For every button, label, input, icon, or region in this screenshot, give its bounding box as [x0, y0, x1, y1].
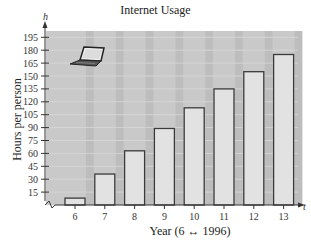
y-tick-label: 90 [28, 122, 38, 133]
y-tick-label: 150 [23, 71, 38, 82]
x-variable-label: t [303, 201, 306, 212]
y-tick-label: 15 [28, 187, 38, 198]
x-tick-label: 9 [162, 211, 167, 222]
x-tick-label: 6 [73, 211, 78, 222]
x-tick-label: 13 [279, 211, 289, 222]
bar-12 [244, 72, 264, 205]
bar-9 [154, 128, 174, 205]
y-tick-label: 135 [23, 83, 38, 94]
bar-chart: 153045607590105120135150165180195 678910… [0, 0, 311, 246]
y-tick-label: 75 [28, 135, 38, 146]
y-tick-label: 195 [23, 32, 38, 43]
x-tick-label: 10 [189, 211, 199, 222]
x-tick-label: 12 [249, 211, 259, 222]
y-variable-label: h [43, 11, 48, 22]
bar-6 [65, 198, 85, 205]
x-tick-label: 7 [102, 211, 107, 222]
bar-10 [184, 108, 204, 205]
bar-7 [95, 174, 115, 205]
y-tick-label: 120 [23, 96, 38, 107]
y-tick-label: 60 [28, 148, 38, 159]
bar-11 [214, 89, 234, 205]
y-tick-label: 165 [23, 58, 38, 69]
bar-8 [125, 151, 145, 205]
x-tick-label: 11 [219, 211, 229, 222]
y-axis: 153045607590105120135150165180195 [23, 21, 49, 201]
y-tick-label: 30 [28, 174, 38, 185]
y-tick-label: 180 [23, 45, 38, 56]
bar-13 [274, 55, 294, 206]
y-tick-label: 105 [23, 109, 38, 120]
x-tick-label: 8 [132, 211, 137, 222]
y-tick-label: 45 [28, 161, 38, 172]
